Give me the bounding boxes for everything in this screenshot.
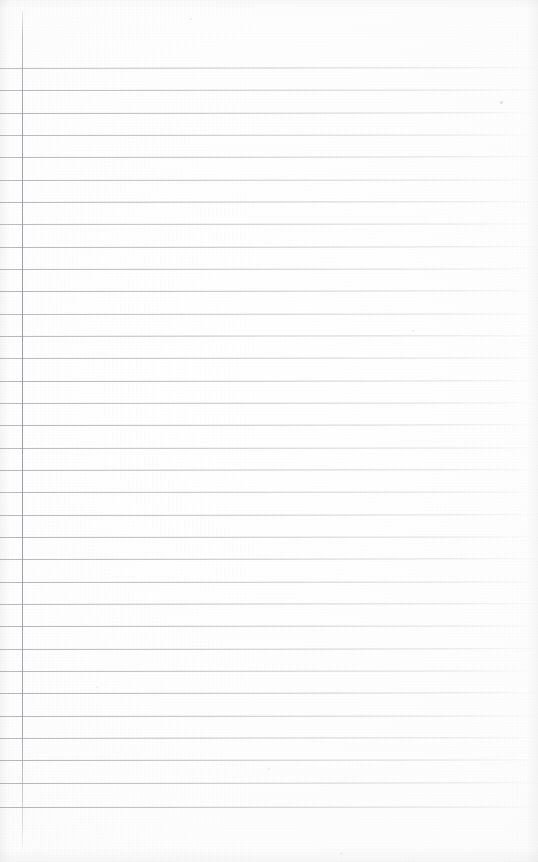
edge-shading-top: [0, 0, 538, 10]
writing-area: [30, 68, 530, 807]
margin-rule-line: [22, 10, 23, 850]
edge-shading-bottom: [0, 848, 538, 862]
top-unruled-margin: [0, 0, 538, 68]
bottom-unruled-margin: [0, 807, 538, 862]
scan-speck: [340, 852, 343, 855]
scanned-notebook-page: [0, 0, 538, 862]
scan-speck: [190, 18, 192, 20]
edge-shading-left: [0, 0, 10, 862]
